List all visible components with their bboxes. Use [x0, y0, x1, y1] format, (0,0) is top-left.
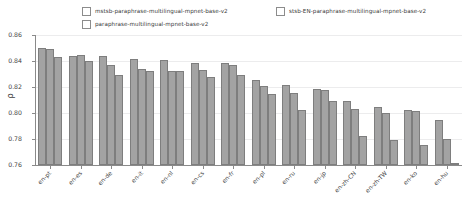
bar-slot: [146, 35, 154, 165]
bar-slot: [329, 35, 337, 165]
bar-slot: [443, 35, 451, 165]
x-tick-label: en-hu: [433, 170, 449, 186]
bar-group: [38, 35, 62, 165]
bar: [46, 49, 54, 165]
bar-slot: [130, 35, 138, 165]
bar: [191, 63, 199, 165]
bar-slot: [404, 35, 412, 165]
bar: [160, 60, 168, 165]
bar-group: [435, 35, 459, 165]
bar: [329, 101, 337, 165]
legend-entry-mstsb: mstsb-paraphrase-multilingual-mpnet-base…: [82, 7, 228, 16]
legend-label: stsb-EN-paraphrase-multilingual-mpnet-ba…: [289, 9, 426, 15]
y-tick-label: 0.82: [0, 84, 22, 90]
bar-slot: [191, 35, 199, 165]
legend-label: mstsb-paraphrase-multilingual-mpnet-base…: [95, 9, 228, 15]
x-tick-mark: [172, 166, 173, 169]
legend-label: paraphrase-multilingual-mpnet-base-v2: [95, 22, 208, 28]
bar-slot: [252, 35, 260, 165]
bar-slot: [85, 35, 93, 165]
plot-area: 0.760.780.800.820.840.86 en-pten-esen-de…: [35, 35, 462, 166]
bar-slot: [260, 35, 268, 165]
bar-slot: [107, 35, 115, 165]
x-tick-label: en-fr: [221, 170, 235, 184]
bar-slot: [290, 35, 298, 165]
y-axis-label: ρ: [7, 93, 15, 98]
bar-slot: [374, 35, 382, 165]
legend-entry-paraphrase: paraphrase-multilingual-mpnet-base-v2: [82, 20, 208, 29]
bar-slot: [321, 35, 329, 165]
chart-legend: mstsb-paraphrase-multilingual-mpnet-base…: [82, 7, 462, 33]
bar: [435, 120, 443, 165]
bar-slot: [359, 35, 367, 165]
bar-slot: [221, 35, 229, 165]
bar-chart-figure: mstsb-paraphrase-multilingual-mpnet-base…: [0, 0, 468, 205]
bar: [168, 71, 176, 166]
bar: [176, 71, 184, 165]
bar-slot: [435, 35, 443, 165]
bar-slot: [99, 35, 107, 165]
x-tick-label: en-nl: [160, 170, 175, 185]
bar-slot: [115, 35, 123, 165]
x-tick-label: en-it: [130, 170, 144, 184]
bar: [207, 77, 215, 165]
x-tick-label: en-pt: [37, 170, 52, 185]
x-tick-mark: [325, 166, 326, 169]
bar: [290, 93, 298, 165]
bar-slot: [412, 35, 420, 165]
bar-group: [313, 35, 337, 165]
bar: [77, 55, 85, 165]
bar-slot: [176, 35, 184, 165]
x-tick-label: en-de: [97, 170, 113, 186]
bar-group: [99, 35, 123, 165]
bar: [146, 71, 154, 165]
bar: [85, 61, 93, 165]
bar: [351, 109, 359, 165]
bar-slot: [351, 35, 359, 165]
bar-group: [252, 35, 276, 165]
x-tick-mark: [203, 166, 204, 169]
bar: [282, 85, 290, 165]
bar-slot: [199, 35, 207, 165]
bar-slot: [168, 35, 176, 165]
x-tick-mark: [142, 166, 143, 169]
bar: [99, 56, 107, 165]
bar: [237, 75, 245, 165]
bar-slot: [298, 35, 306, 165]
bar-slot: [46, 35, 54, 165]
legend-swatch-icon: [82, 20, 91, 29]
legend-swatch-icon: [82, 7, 91, 16]
bar: [107, 65, 115, 165]
legend-entry-stsb-en: stsb-EN-paraphrase-multilingual-mpnet-ba…: [276, 7, 426, 16]
bar: [54, 57, 62, 165]
x-tick-mark: [416, 166, 417, 169]
bar-group: [404, 35, 428, 165]
bar-slot: [268, 35, 276, 165]
bar: [443, 139, 451, 165]
y-tick-label: 0.78: [0, 136, 22, 142]
x-tick-label: en-cs: [189, 170, 205, 186]
bar: [138, 69, 146, 165]
bar-slot: [313, 35, 321, 165]
x-tick-label: en-ru: [281, 170, 297, 186]
x-tick-label: en-zh-TW: [364, 170, 388, 194]
x-tick-mark: [355, 166, 356, 169]
y-axis-line: [35, 35, 36, 166]
bar: [359, 136, 367, 165]
x-tick-mark: [50, 166, 51, 169]
bar-slot: [237, 35, 245, 165]
y-tick-label: 0.86: [0, 32, 22, 38]
bar: [252, 80, 260, 165]
bar: [321, 90, 329, 165]
bar: [412, 111, 420, 165]
bar-slot: [207, 35, 215, 165]
bar-slot: [282, 35, 290, 165]
x-tick-mark: [294, 166, 295, 169]
bar-slot: [420, 35, 428, 165]
x-tick-label: en-jp: [312, 170, 327, 185]
bar: [268, 94, 276, 165]
bar-group: [160, 35, 184, 165]
y-tick-label: 0.80: [0, 110, 22, 116]
bar-group: [374, 35, 398, 165]
bar: [313, 89, 321, 165]
